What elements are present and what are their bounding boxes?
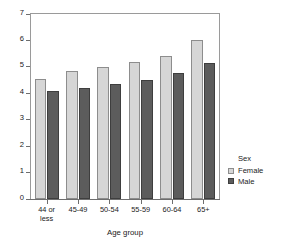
y-tick-label: 2	[20, 141, 24, 149]
x-tick-mark	[78, 200, 79, 204]
legend-swatch-female-icon	[228, 168, 234, 174]
x-axis-line	[30, 199, 220, 200]
bar-female-4	[160, 56, 172, 199]
bar-male-0	[47, 91, 59, 199]
legend-label-female: Female	[238, 167, 263, 175]
bars-layer	[31, 14, 219, 199]
y-tick-mark	[26, 119, 30, 120]
y-tick-mark	[26, 93, 30, 94]
x-axis-title: Age group	[30, 228, 220, 237]
y-tick-mark	[26, 40, 30, 41]
y-tick-label: 1	[20, 167, 24, 175]
y-tick-mark	[26, 172, 30, 173]
bar-female-1	[66, 71, 78, 199]
x-tick-mark	[47, 200, 48, 204]
y-tick-label: 5	[20, 61, 24, 69]
bar-male-4	[173, 73, 185, 199]
y-tick-mark	[26, 66, 30, 67]
legend-title: Sex	[228, 154, 263, 163]
y-tick-label: 6	[20, 35, 24, 43]
legend-label-male: Male	[238, 178, 254, 186]
bar-male-2	[110, 84, 122, 199]
x-tick-mark	[203, 200, 204, 204]
bar-male-5	[204, 63, 216, 199]
y-tick-label: 3	[20, 114, 24, 122]
bar-female-3	[129, 62, 141, 199]
bar-chart: Mean completion time in hours 01234567 4…	[0, 0, 282, 245]
y-tick-mark	[26, 14, 30, 15]
bar-male-3	[141, 80, 153, 199]
legend-item-female[interactable]: Female	[228, 167, 263, 175]
bar-female-2	[97, 67, 109, 199]
bar-male-1	[79, 88, 91, 199]
y-tick-label: 7	[20, 9, 24, 17]
y-tick-label: 4	[20, 88, 24, 96]
x-tick-label: 65+	[183, 206, 223, 215]
legend: Sex Female Male	[228, 154, 263, 188]
y-tick-label: 0	[20, 194, 24, 202]
x-tick-mark	[109, 200, 110, 204]
bar-female-0	[35, 79, 47, 199]
legend-item-male[interactable]: Male	[228, 178, 263, 186]
bar-female-5	[191, 40, 203, 199]
x-tick-mark	[141, 200, 142, 204]
x-tick-mark	[172, 200, 173, 204]
legend-swatch-male-icon	[228, 178, 234, 184]
y-tick-mark	[26, 146, 30, 147]
